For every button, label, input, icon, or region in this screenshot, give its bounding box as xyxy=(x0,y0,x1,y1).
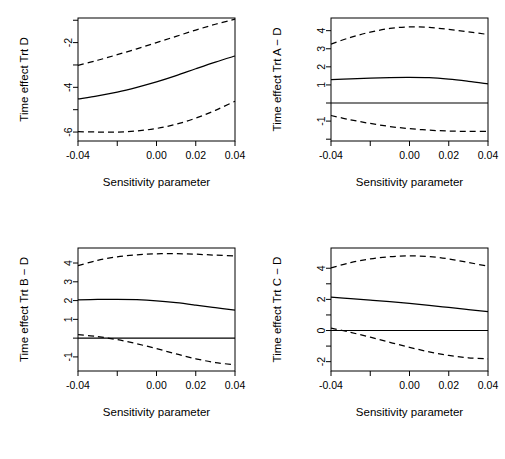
confidence-bound-curve xyxy=(331,27,488,44)
y-tick-label: 2 xyxy=(315,296,327,302)
x-tick-label: 0.02 xyxy=(439,149,460,161)
y-tick-label: 4 xyxy=(315,28,327,34)
confidence-bound-curve xyxy=(78,335,235,365)
y-axis-title: Time effect Trt B − D xyxy=(18,257,30,362)
panel-trt-a-minus-d: -0.040.000.020.04-11234Sensitivity param… xyxy=(253,0,505,229)
x-axis-title: Sensitivity parameter xyxy=(103,176,211,188)
y-tick-label: 2 xyxy=(62,298,74,304)
panel-trt-c-minus-d-plot-area: -0.040.000.020.04-2024Sensitivity parame… xyxy=(271,248,498,418)
panel-trt-b-minus-d: -0.040.000.020.04-11234Sensitivity param… xyxy=(0,230,252,459)
panel-trt-d: -0.040.000.020.04-2-4-6Sensitivity param… xyxy=(0,0,252,229)
confidence-bound-curve xyxy=(78,254,235,266)
panel-trt-c-minus-d-svg: -0.040.000.020.04-2024Sensitivity parame… xyxy=(253,230,505,459)
x-tick-label: 0.00 xyxy=(146,379,167,391)
y-tick-label: -2 xyxy=(315,357,327,366)
x-axis-title: Sensitivity parameter xyxy=(356,176,464,188)
plot-border xyxy=(78,18,235,141)
x-tick-label: 0.00 xyxy=(146,149,167,161)
panel-trt-b-minus-d-svg: -0.040.000.020.04-11234Sensitivity param… xyxy=(0,230,252,459)
confidence-bound-curve xyxy=(78,101,235,132)
confidence-bound-curve xyxy=(331,328,488,359)
x-axis-title: Sensitivity parameter xyxy=(356,406,464,418)
y-tick-label: -2 xyxy=(62,38,74,47)
y-tick-label: -1 xyxy=(62,352,74,361)
confidence-bound-curve xyxy=(331,116,488,132)
y-tick-label: 4 xyxy=(315,265,327,271)
x-tick-label: 0.04 xyxy=(225,149,246,161)
panel-trt-d-svg: -0.040.000.020.04-2-4-6Sensitivity param… xyxy=(0,0,252,229)
x-tick-label: -0.04 xyxy=(319,149,343,161)
point-estimate-curve xyxy=(331,77,488,84)
panel-trt-d-plot-area: -0.040.000.020.04-2-4-6Sensitivity param… xyxy=(18,18,245,188)
x-tick-label: -0.04 xyxy=(319,379,343,391)
y-tick-label: 2 xyxy=(315,64,327,70)
x-tick-label: 0.02 xyxy=(186,379,207,391)
x-tick-label: 0.02 xyxy=(439,379,460,391)
x-tick-label: -0.04 xyxy=(66,379,90,391)
point-estimate-curve xyxy=(331,297,488,311)
y-tick-label: 1 xyxy=(315,82,327,88)
y-tick-label: 4 xyxy=(62,260,74,266)
panel-trt-b-minus-d-plot-area: -0.040.000.020.04-11234Sensitivity param… xyxy=(18,248,245,418)
y-axis-title: Time effect Trt C − D xyxy=(271,257,283,363)
y-tick-label: 1 xyxy=(62,316,74,322)
y-tick-label: -6 xyxy=(62,127,74,136)
x-tick-label: -0.04 xyxy=(66,149,90,161)
point-estimate-curve xyxy=(78,299,235,310)
confidence-bound-curve xyxy=(331,256,488,268)
sensitivity-analysis-figure: -0.040.000.020.04-2-4-6Sensitivity param… xyxy=(0,0,505,459)
x-tick-label: 0.00 xyxy=(399,149,420,161)
panel-trt-c-minus-d: -0.040.000.020.04-2024Sensitivity parame… xyxy=(253,230,505,459)
panel-trt-a-minus-d-svg: -0.040.000.020.04-11234Sensitivity param… xyxy=(253,0,505,229)
y-tick-label: 0 xyxy=(315,327,327,333)
x-tick-label: 0.04 xyxy=(225,379,246,391)
x-tick-label: 0.04 xyxy=(478,379,499,391)
y-tick-label: 3 xyxy=(62,279,74,285)
plot-border xyxy=(78,248,235,371)
y-tick-label: -1 xyxy=(315,116,327,125)
y-tick-label: -4 xyxy=(62,83,74,92)
panel-trt-a-minus-d-plot-area: -0.040.000.020.04-11234Sensitivity param… xyxy=(271,18,498,188)
y-tick-label: 3 xyxy=(315,46,327,52)
x-axis-title: Sensitivity parameter xyxy=(103,406,211,418)
y-axis-title: Time effect Trt D xyxy=(18,37,30,121)
point-estimate-curve xyxy=(78,56,235,99)
y-axis-title: Time effect Trt A − D xyxy=(271,28,283,132)
x-tick-label: 0.00 xyxy=(399,379,420,391)
x-tick-label: 0.04 xyxy=(478,149,499,161)
confidence-bound-curve xyxy=(78,19,235,65)
x-tick-label: 0.02 xyxy=(186,149,207,161)
